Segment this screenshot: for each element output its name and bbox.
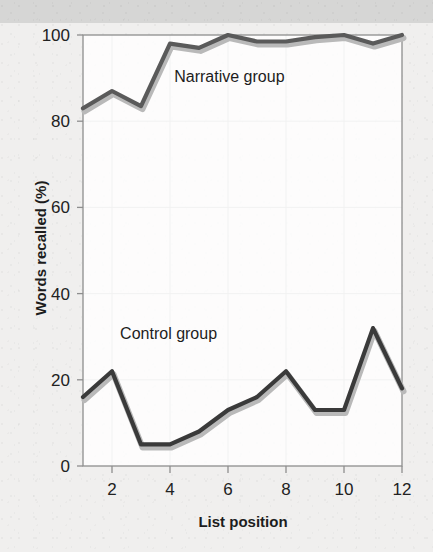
figure-page: 020406080100 24681012 Narrative groupCon… [0, 0, 433, 552]
x-axis-title: List position [198, 513, 287, 530]
line-chart: 020406080100 24681012 Narrative groupCon… [0, 0, 433, 552]
y-tick-label: 100 [42, 26, 70, 45]
x-tick-label: 6 [223, 480, 232, 499]
x-tick-label: 12 [393, 480, 412, 499]
y-tick-label: 20 [51, 371, 70, 390]
x-tick-label: 10 [335, 480, 354, 499]
y-tick-label: 0 [61, 457, 70, 476]
y-tick-label: 60 [51, 198, 70, 217]
series-annotation-2: Control group [120, 325, 217, 342]
x-tick-labels: 24681012 [107, 480, 411, 499]
x-tick-label: 8 [281, 480, 290, 499]
x-tick-label: 4 [165, 480, 174, 499]
y-axis-title: Words recalled (%) [32, 181, 49, 316]
y-tick-label: 40 [51, 285, 70, 304]
series-annotation-1: Narrative group [174, 68, 284, 85]
x-tick-label: 2 [107, 480, 116, 499]
y-tick-label: 80 [51, 112, 70, 131]
